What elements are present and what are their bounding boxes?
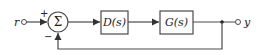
plus-sign: + (40, 8, 48, 19)
block-g: G(s) (160, 11, 193, 34)
minus-sign: − (44, 31, 52, 42)
block-g-label: G(s) (165, 16, 188, 29)
input-terminal-icon (22, 20, 27, 25)
output-terminal-icon (236, 20, 241, 25)
sigma-symbol: Σ (54, 15, 62, 29)
output-label: y (243, 16, 251, 29)
feedback-wire (58, 22, 222, 49)
input-label: r (14, 16, 20, 29)
block-d: D(s) (101, 11, 128, 34)
summing-junction: Σ (48, 12, 68, 32)
block-diagram: r Σ + − D(s) G(s) y (0, 0, 260, 55)
block-d-label: D(s) (102, 16, 126, 29)
